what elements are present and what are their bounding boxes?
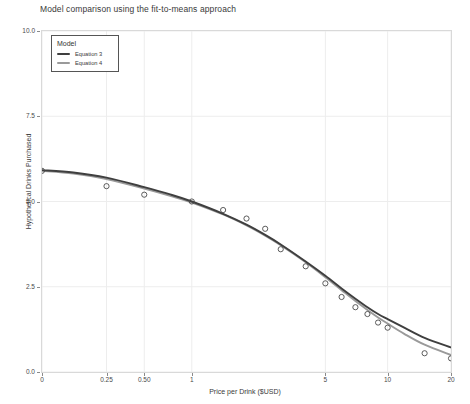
y-axis-label: Hypothetical Drinks Purchased [25, 102, 32, 262]
x-axis-label: Price per Drink ($USD) [135, 388, 355, 395]
x-tick-label: 0 [27, 376, 57, 383]
plot-svg [42, 31, 451, 372]
legend-box: Model Equation 3Equation 4 [51, 35, 119, 72]
x-tick-mark [107, 373, 108, 376]
x-tick-label: 0.50 [129, 376, 159, 383]
chart-title: Model comparison using the fit-to-means … [40, 4, 236, 14]
x-tick-mark [144, 373, 145, 376]
x-tick-mark [451, 373, 452, 376]
legend-entries: Equation 3Equation 4 [57, 51, 113, 66]
x-tick-label: 1 [177, 376, 207, 383]
y-tick-mark [37, 31, 40, 32]
legend-item[interactable]: Equation 3 [57, 51, 113, 57]
y-tick-mark [37, 372, 40, 373]
x-tick-mark [388, 373, 389, 376]
x-tick-mark [192, 373, 193, 376]
y-tick-label: 0.0 [9, 368, 35, 375]
chart-figure: Model comparison using the fit-to-means … [0, 0, 470, 404]
data-point-marker [263, 226, 268, 231]
data-point-marker [353, 305, 358, 310]
x-tick-label: 5 [310, 376, 340, 383]
legend-line-icon [57, 53, 70, 56]
x-tick-label: 0.25 [92, 376, 122, 383]
y-tick-mark [37, 116, 40, 117]
data-point-marker [375, 320, 380, 325]
x-tick-label: 10 [373, 376, 403, 383]
data-point-marker [365, 311, 370, 316]
x-tick-mark [325, 373, 326, 376]
data-point-marker [278, 247, 283, 252]
legend-line-icon [57, 62, 70, 65]
y-tick-mark [37, 202, 40, 203]
y-tick-label: 10.0 [9, 27, 35, 34]
model-curve [42, 170, 451, 347]
data-point-marker [303, 264, 308, 269]
y-tick-mark [37, 287, 40, 288]
y-tick-label: 2.5 [9, 283, 35, 290]
x-tick-mark [42, 373, 43, 376]
data-point-marker [339, 294, 344, 299]
legend-item-label: Equation 4 [75, 60, 102, 66]
data-point-marker [422, 351, 427, 356]
legend-title: Model [57, 40, 113, 47]
plot-panel [41, 30, 452, 373]
x-tick-label: 20 [436, 376, 466, 383]
data-point-marker [244, 216, 249, 221]
model-curve [42, 171, 451, 355]
data-point-marker [221, 207, 226, 212]
legend-item-label: Equation 3 [75, 51, 102, 57]
legend-item[interactable]: Equation 4 [57, 60, 113, 66]
